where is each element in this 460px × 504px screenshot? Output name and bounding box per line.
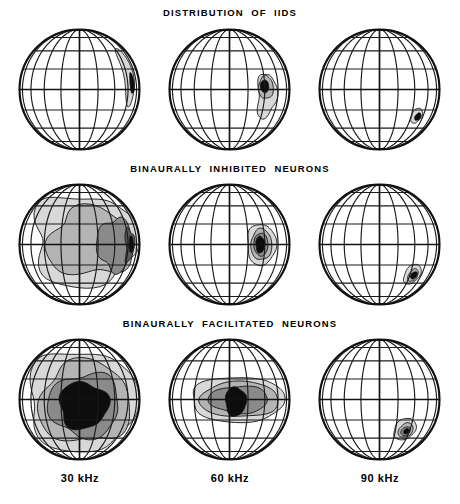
globe-facilitated-60khz <box>167 337 292 462</box>
globe-facilitated-30khz <box>17 337 142 462</box>
row-title-facilitated: BINAURALLY FACILITATED NEURONS <box>0 318 460 329</box>
globe-iids-90khz <box>317 27 442 152</box>
globe-inhibited-60khz <box>167 182 292 307</box>
freq-label-60khz: 60 kHz <box>155 472 305 484</box>
freq-label-90khz: 90 kHz <box>305 472 455 484</box>
globe-iids-60khz <box>167 27 292 152</box>
globe-inhibited-90khz <box>317 182 442 307</box>
row-title-iids: DISTRIBUTION OF IIDS <box>0 7 460 18</box>
globe-iids-30khz <box>17 27 142 152</box>
freq-label-30khz: 30 kHz <box>5 472 155 484</box>
globe-inhibited-30khz <box>17 182 142 307</box>
row-title-inhibited: BINAURALLY INHIBITED NEURONS <box>0 163 460 174</box>
globe-facilitated-90khz <box>317 337 442 462</box>
